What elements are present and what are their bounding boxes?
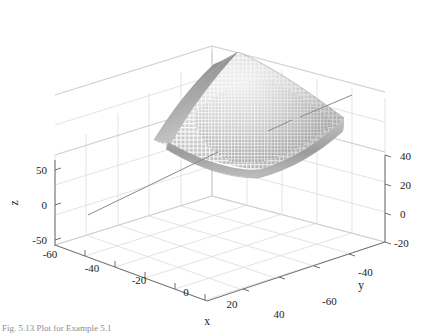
x-tick-label-1: -40 [85, 262, 100, 274]
y-tick-label-1: 20 [400, 179, 412, 191]
z-tick-label-1: 0 [42, 199, 48, 211]
z-tick-label-0: 50 [36, 164, 48, 176]
y-tick-label-5: -60 [322, 295, 337, 307]
x-tick-label-5: 40 [274, 308, 286, 320]
z-tick-label-2: -50 [32, 234, 47, 246]
y-tick-label-0: 40 [400, 150, 412, 162]
x-tick-label-3: 0 [183, 286, 189, 298]
figure-3d-surface-plot: 50 0 -50 -60 -40 -20 0 20 40 40 20 0 -20… [0, 0, 431, 334]
x-tick-label-0: -60 [43, 248, 58, 260]
mesh-surface [150, 45, 350, 178]
y-tick-label-2: 0 [400, 208, 406, 220]
axis-z [55, 160, 61, 246]
z-axis-label: z [8, 200, 20, 205]
plot-canvas: 50 0 -50 -60 -40 -20 0 20 40 40 20 0 -20… [0, 0, 431, 334]
figure-caption: Fig. 5.13 Plot for Example 5.1 [2, 323, 112, 334]
figure-caption-clip: Fig. 5.13 Plot for Example 5.1 [0, 323, 431, 334]
y-axis-label: y [358, 279, 364, 292]
y-tick-label-3: -20 [394, 237, 409, 249]
y-tick-label-4: -40 [358, 266, 373, 278]
x-tick-label-4: 20 [227, 298, 239, 310]
x-tick-label-2: -20 [132, 274, 147, 286]
